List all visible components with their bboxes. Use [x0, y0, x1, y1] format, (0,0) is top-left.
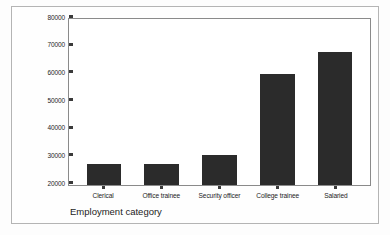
- bar-slot: [248, 19, 306, 185]
- x-axis-tick-label: Office trainee: [132, 190, 190, 202]
- bar-slot: [191, 19, 249, 185]
- x-axis-tick-label: Clerical: [74, 190, 132, 202]
- bar[interactable]: [318, 52, 353, 185]
- plot-area: [69, 19, 370, 185]
- x-axis-tick-label: Security officer: [190, 190, 248, 202]
- x-axis-tick: [102, 186, 105, 189]
- bar-slot: [75, 19, 133, 185]
- x-axis-tick-label: College trainee: [249, 190, 307, 202]
- y-axis-tick-label: 40000: [47, 124, 65, 131]
- y-axis-tick-label: 60000: [47, 68, 65, 75]
- x-axis-tick: [218, 186, 221, 189]
- plot-panel: Mean Current salary 20000300004000050000…: [68, 18, 371, 186]
- x-axis-tick: [276, 186, 279, 189]
- bar-slot: [306, 19, 364, 185]
- x-axis-tick-label: Salaried: [307, 190, 365, 202]
- y-axis-tick-label: 80000: [47, 13, 65, 20]
- bar[interactable]: [202, 155, 237, 185]
- y-axis-tick: 80000: [69, 15, 73, 18]
- bar-group: [69, 19, 370, 185]
- x-axis-tick: [160, 186, 163, 189]
- y-axis-tick-label: 30000: [47, 151, 65, 158]
- y-axis-tick-label: 20000: [47, 179, 65, 186]
- bar[interactable]: [144, 164, 179, 185]
- x-axis-tick-labels: ClericalOffice traineeSecurity officerCo…: [68, 190, 371, 202]
- x-axis-title: Employment category: [68, 206, 371, 217]
- bar[interactable]: [260, 74, 295, 185]
- bar-slot: [133, 19, 191, 185]
- x-axis-tick: [334, 186, 337, 189]
- y-axis-tick-label: 50000: [47, 96, 65, 103]
- y-axis-tick-label: 70000: [47, 41, 65, 48]
- bar[interactable]: [87, 164, 122, 185]
- chart-screenshot: Mean Current salary 20000300004000050000…: [0, 0, 390, 235]
